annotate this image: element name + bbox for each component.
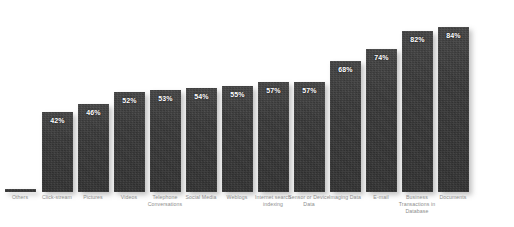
bar[interactable]: 55% [222,86,253,192]
bar-group: 57% [258,82,289,192]
bar-group: 74% [366,49,397,192]
bar-group: 68% [330,61,361,192]
bar-value-label: 57% [258,87,289,94]
bar[interactable]: 74% [366,49,397,192]
bar-group: 52% [114,92,145,192]
bar[interactable]: 54% [186,88,217,192]
bar-value-label: 54% [186,93,217,100]
bar-value-label: 52% [114,97,145,104]
bar-value-label: 53% [150,95,181,102]
bar[interactable]: 57% [294,82,325,192]
bar-group: 82% [402,31,433,192]
bar[interactable]: 46% [78,104,109,192]
bar[interactable]: 68% [330,61,361,192]
bar-value-label: 68% [330,66,361,73]
bar-chart: 42% 46% 52% 53% 54% 55% [0,0,514,227]
bar-value-label: 82% [402,36,433,43]
bar-group: 42% [42,112,73,192]
bar-value-label: 46% [78,109,109,116]
bar[interactable]: 52% [114,92,145,192]
bar[interactable]: 57% [258,82,289,192]
bar[interactable]: 42% [42,112,73,192]
bar[interactable]: 82% [402,31,433,192]
bar-group: 84% [438,27,469,192]
bar-group: 57% [294,82,325,192]
bar[interactable] [5,189,36,192]
bar[interactable]: 53% [150,90,181,192]
bar-value-label: 74% [366,54,397,61]
bar-value-label: 84% [438,32,469,39]
category-label: Documents [431,194,475,201]
bar-group: 55% [222,86,253,192]
plot-area: 42% 46% 52% 53% 54% 55% [0,0,514,192]
bar-value-label: 42% [42,117,73,124]
bar-value-label: 55% [222,91,253,98]
bar-group: 46% [78,104,109,192]
bar-group: 54% [186,88,217,192]
bar-value-label: 57% [294,87,325,94]
bar-group: 53% [150,90,181,192]
bar[interactable]: 84% [438,27,469,192]
bar-group [5,189,36,192]
category-labels: Others Click-stream Pictures Videos Tele… [0,194,514,227]
